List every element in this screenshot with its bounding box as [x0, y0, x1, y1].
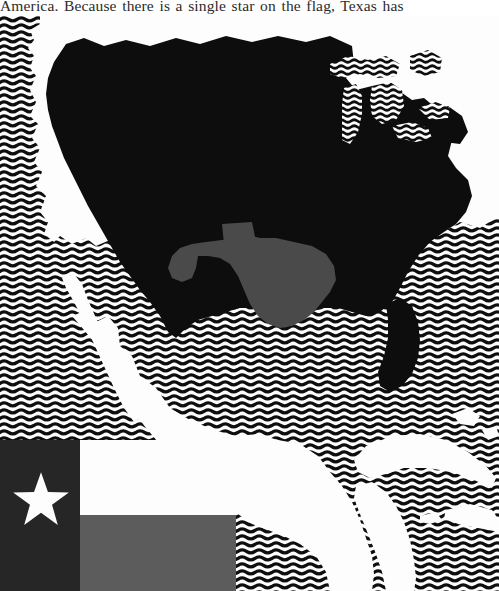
- flag-upper-stripe: [80, 440, 236, 515]
- body-text-line: America. Because there is a single star …: [0, 0, 404, 15]
- texas-flag-inset: [0, 440, 236, 591]
- lone-star-icon: [12, 471, 70, 529]
- texas-panhandle: [222, 222, 256, 244]
- page-body-text: America. Because there is a single star …: [0, 0, 499, 16]
- flag-lower-stripe: [80, 515, 236, 591]
